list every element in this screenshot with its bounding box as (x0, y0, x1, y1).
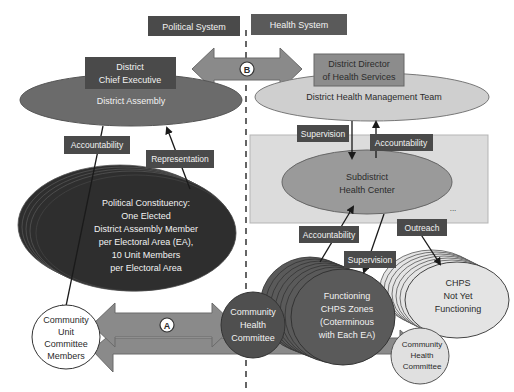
supervision-label-lower: Supervision (344, 251, 396, 268)
political-system-header: Political System (148, 16, 240, 36)
svg-text:Health: Health (240, 320, 266, 330)
svg-text:Functioning: Functioning (324, 291, 371, 301)
svg-text:Chief Executive: Chief Executive (99, 75, 162, 85)
svg-text:Community: Community (402, 340, 442, 349)
svg-text:per Electoral Area: per Electoral Area (110, 263, 182, 273)
svg-text:Community: Community (230, 307, 276, 317)
svg-text:Accountability: Accountability (303, 230, 356, 240)
svg-text:with Each EA): with Each EA) (318, 330, 376, 340)
svg-text:Supervision: Supervision (301, 129, 346, 139)
director-box: District Director of Health Services (314, 54, 404, 86)
representation-label: Representation (146, 150, 214, 168)
svg-text:B: B (244, 65, 251, 75)
svg-text:A: A (164, 321, 171, 331)
supervision-label-upper: Supervision (297, 125, 349, 142)
svg-text:Committee: Committee (44, 339, 88, 349)
svg-text:District Director: District Director (328, 59, 390, 69)
svg-text:of Health Services: of Health Services (322, 72, 396, 82)
svg-text:per Electoral Area (EA),: per Electoral Area (EA), (99, 237, 194, 247)
svg-text:One Elected: One Elected (121, 211, 171, 221)
svg-text:Political Constituency:: Political Constituency: (102, 198, 190, 208)
svg-text:Community: Community (43, 315, 89, 325)
svg-text:Accountability: Accountability (375, 138, 428, 148)
svg-text:Political System: Political System (162, 22, 226, 32)
svg-text:Not Yet: Not Yet (443, 291, 473, 301)
svg-text:10 Unit Members: 10 Unit Members (112, 250, 181, 260)
svg-text:Accountability: Accountability (71, 140, 124, 150)
svg-text:Health: Health (410, 351, 433, 360)
svg-text:Members: Members (47, 351, 85, 361)
dhmt-label: District Health Management Team (306, 92, 441, 102)
svg-text:Supervision: Supervision (348, 255, 393, 265)
accountability-label-upper: Accountability (370, 134, 433, 151)
svg-text:District Assembly Member: District Assembly Member (94, 224, 198, 234)
accountability-label-political: Accountability (64, 136, 130, 154)
chief-executive-box: District Chief Executive (85, 57, 176, 89)
svg-text:Committee: Committee (403, 362, 442, 371)
svg-text:Health System: Health System (270, 20, 329, 30)
svg-text:Subdistrict: Subdistrict (346, 172, 389, 182)
outreach-label: Outreach (397, 219, 447, 236)
subdistrict-ellipse (282, 150, 452, 214)
svg-text:Committee: Committee (231, 333, 275, 343)
svg-text:Unit: Unit (58, 327, 75, 337)
health-system-header: Health System (251, 14, 347, 35)
svg-text:CHPS: CHPS (445, 278, 470, 288)
svg-text:Outreach: Outreach (405, 223, 440, 233)
ellipsis-text: ... (450, 204, 457, 213)
svg-text:CHPS Zones: CHPS Zones (321, 304, 374, 314)
health-political-systems-diagram: Political System Health System District … (0, 0, 514, 392)
svg-text:Functioning: Functioning (435, 304, 482, 314)
svg-text:Representation: Representation (151, 154, 209, 164)
accountability-label-lower: Accountability (299, 226, 359, 243)
district-assembly-label: District Assembly (97, 96, 166, 106)
svg-text:District: District (116, 62, 144, 72)
svg-text:Health Center: Health Center (339, 185, 395, 195)
svg-text:(Coterminous: (Coterminous (320, 317, 375, 327)
